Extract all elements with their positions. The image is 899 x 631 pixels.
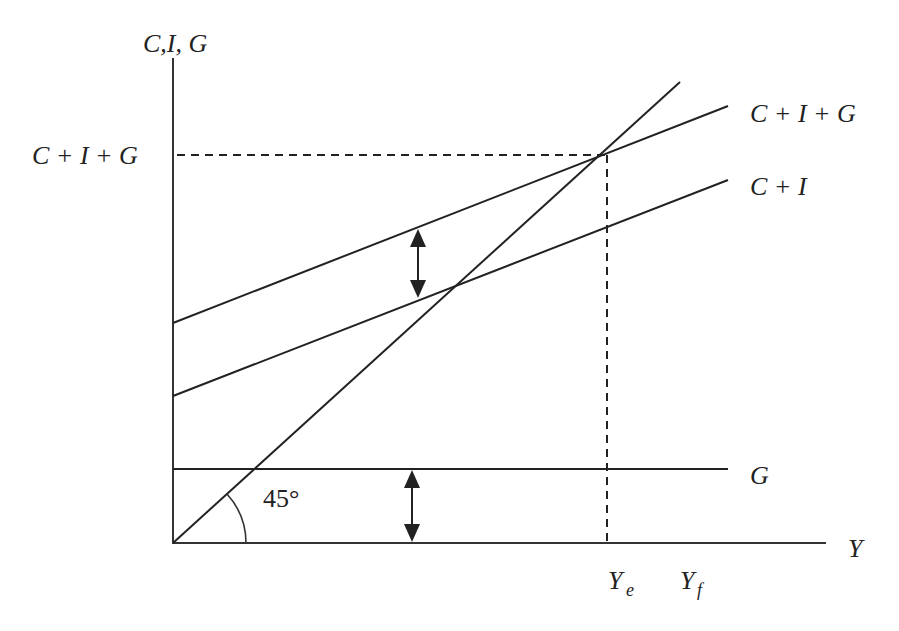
x-axis-label: Y: [848, 534, 865, 563]
double-arrow-upper-icon: [410, 229, 426, 298]
c-plus-i-label: C + I: [750, 172, 808, 201]
svg-text:Y: Y: [608, 566, 625, 595]
full-employment-output-label: Y f: [680, 566, 705, 600]
double-arrow-lower-icon: [404, 470, 420, 542]
angle-arc-icon: [227, 494, 246, 543]
y-tick-label: C + I + G: [32, 141, 138, 170]
keynesian-cross-diagram: C,I, G C + I + G C + I + G C + I G Y 45°…: [0, 0, 899, 631]
angle-label: 45°: [263, 484, 299, 513]
government-label: G: [750, 461, 769, 490]
c-plus-i-plus-g-label: C + I + G: [750, 99, 856, 128]
forty-five-degree-line: [173, 82, 680, 543]
equilibrium-output-label: Y e: [608, 566, 634, 600]
svg-text:e: e: [626, 580, 634, 600]
c-plus-i-line: [173, 180, 728, 396]
svg-text:Y: Y: [680, 566, 697, 595]
svg-text:f: f: [697, 580, 705, 600]
y-axis-label: C,I, G: [143, 29, 208, 58]
